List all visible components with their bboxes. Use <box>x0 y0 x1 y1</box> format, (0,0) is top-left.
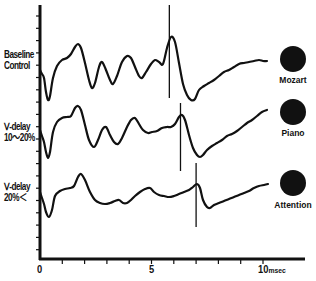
dot-label-mozart: Mozart <box>263 75 316 86</box>
condition-dot-2 <box>280 170 306 196</box>
dot-label-piano: Piano <box>263 128 316 139</box>
condition-dots <box>280 46 306 196</box>
condition-dot-1 <box>280 99 306 125</box>
row-label-line2: Control <box>4 60 34 71</box>
row-label-vdelay-10-20: Ⅴ-delay 10～20% <box>4 121 35 143</box>
x-tick-10-value: 10 <box>258 263 268 275</box>
x-tick-label-0: 0 <box>37 264 42 275</box>
y-axis <box>36 5 40 260</box>
waveform-figure <box>0 0 316 281</box>
row-label-line1: Ⅴ-delay <box>4 181 30 192</box>
row-label-line1: Baseline <box>4 49 34 60</box>
row-label-vdelay-20-plus: Ⅴ-delay 20%＜ <box>4 181 30 203</box>
row-label-line2: 10～20% <box>4 132 35 143</box>
trace-0 <box>40 37 267 101</box>
x-tick-label-10: 10msec <box>258 264 286 276</box>
x-axis-unit: msec <box>268 266 285 275</box>
waveform-traces <box>40 37 268 217</box>
row-label-line2: 20%＜ <box>4 192 30 203</box>
condition-dot-0 <box>280 46 306 72</box>
dot-label-attention: Attention <box>263 200 316 211</box>
row-label-line1: Ⅴ-delay <box>4 121 35 132</box>
row-label-baseline: Baseline Control <box>4 49 34 71</box>
trace-1 <box>40 106 267 158</box>
x-tick-label-5: 5 <box>149 264 154 275</box>
trace-2 <box>40 174 268 217</box>
